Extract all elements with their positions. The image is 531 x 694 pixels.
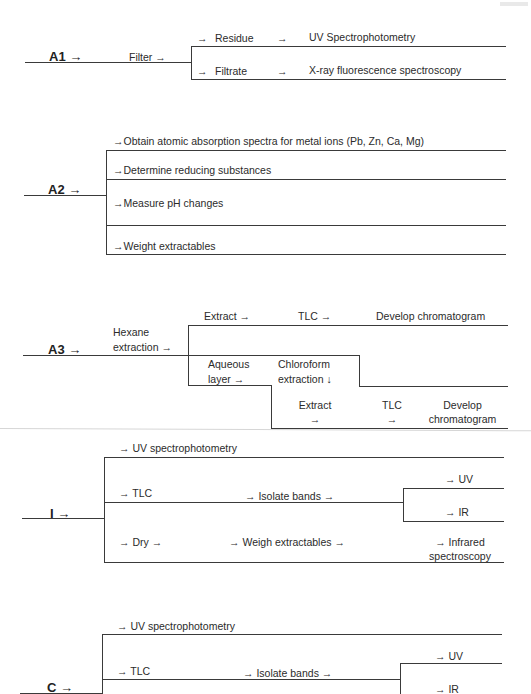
a3-branch-connector (188, 325, 189, 386)
a2-branch-weight-extractables: →Weight extractables (113, 240, 216, 253)
a3-lower-result-line1: Develop (420, 399, 505, 412)
i-dry: → Dry → (119, 536, 162, 549)
a3-lower-tlc-line1: TLC (372, 399, 412, 412)
a3-chloroform-step-down (359, 355, 360, 386)
a2-branch-line-2 (106, 179, 506, 180)
a3-top-branch-line (188, 325, 508, 326)
i-branch-connector (104, 457, 105, 563)
c-isolate-bands: → Isolate bands → (243, 667, 332, 680)
a3-chloroform-line (359, 386, 508, 387)
a2-label: A2 → (48, 182, 81, 197)
a1-filtrate-arrow: → (197, 65, 208, 78)
a2-branch-line-1 (106, 150, 506, 151)
a3-aqueous-line2: layer → (208, 373, 244, 386)
i-sub-ir-line (403, 521, 504, 522)
a1-residue-arrow: → (197, 32, 208, 45)
c-sub-connector (400, 663, 401, 694)
a3-hexane-line1: Hexane (113, 326, 149, 339)
i-infrared-line2: spectroscopy (415, 550, 505, 563)
a2-branch-reducing-substances: →Determine reducing substances (113, 164, 271, 177)
a1-filtrate-line (191, 79, 506, 80)
a3-chloroform-line2: extraction ↓ (278, 373, 332, 386)
i-infrared-line1: → Infrared (415, 536, 505, 549)
a3-top-tlc: TLC → (298, 310, 331, 323)
a3-label: A3 → (48, 342, 81, 357)
i-uv-line (104, 457, 504, 458)
a1-filtrate-arrow2: → (277, 65, 288, 78)
i-tlc: → TLC (119, 487, 152, 500)
a3-lower-result-line2: chromatogram (420, 413, 505, 426)
a3-aqueous-line1: Aqueous (208, 358, 249, 371)
a1-residue-label: Residue (215, 32, 254, 45)
a1-residue-line (191, 46, 506, 47)
a1-filtrate-label: Filtrate (215, 65, 247, 78)
a1-filtrate-result: X-ray fluorescence spectroscopy (309, 64, 461, 77)
a3-top-result: Develop chromatogram (376, 310, 485, 323)
a2-branch-atomic-absorption: →Obtain atomic absorption spectra for me… (113, 135, 424, 148)
c-branch-connector (102, 634, 103, 694)
a1-residue-result: UV Spectrophotometry (309, 31, 415, 44)
a1-branch-connector (191, 46, 192, 80)
a2-branch-ph-changes: →Measure pH changes (113, 197, 223, 210)
i-sub-uv-line (403, 488, 504, 489)
i-weigh-extractables: → Weigh extractables → (229, 536, 345, 549)
a2-branch-line-3 (106, 225, 506, 226)
a1-filter-step: Filter → (129, 51, 166, 64)
c-sub-ir: → IR (435, 683, 459, 694)
c-sub-uv-line (400, 663, 502, 664)
i-sub-uv: → UV (445, 473, 473, 486)
a2-branch-connector (106, 150, 107, 255)
a3-hexane-line2: extraction → (113, 341, 172, 354)
c-label: C → (47, 680, 73, 694)
a3-chloroform-line1: Chloroform (278, 358, 330, 371)
a1-residue-arrow2: → (277, 32, 288, 45)
i-isolate-bands: → Isolate bands → (245, 490, 334, 503)
c-uv-spectrophotometry: → UV spectrophotometry (117, 620, 235, 633)
c-sub-uv: → UV (435, 650, 463, 663)
a3-lower-tlc-line2: → (372, 413, 412, 426)
a3-lower-extract-line2: → (290, 413, 340, 426)
i-label: I → (50, 506, 70, 521)
i-sub-connector (403, 488, 404, 521)
i-sub-ir: → IR (445, 506, 469, 519)
c-uv-line (102, 634, 502, 635)
a3-lower-extract-line1: Extract (290, 399, 340, 412)
page-number-fragment (500, 2, 528, 6)
a2-branch-line-4 (106, 254, 506, 255)
i-uv-spectrophotometry: → UV spectrophotometry (119, 442, 237, 455)
c-tlc: → TLC (117, 665, 150, 678)
a3-lower-step-down (271, 385, 272, 428)
a1-label: A1 → (49, 49, 82, 64)
a3-top-extract: Extract → (204, 310, 250, 323)
